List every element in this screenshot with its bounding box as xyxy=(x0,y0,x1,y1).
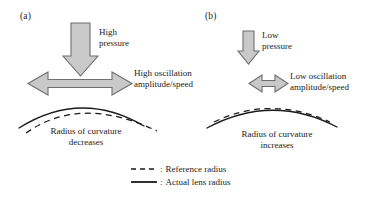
legend-reference-radius-separator: : xyxy=(160,164,163,174)
panel-a-oscillation-label: High oscillation amplitude/speed xyxy=(134,68,193,90)
panel-label-a: (a) xyxy=(20,11,31,21)
panel-b-reference-radius-curve xyxy=(214,109,330,123)
legend-item-reference-radius: : Reference radius xyxy=(131,164,226,174)
legend-reference-radius-label: Reference radius xyxy=(166,164,227,174)
panel-a-actual-lens-radius-curve xyxy=(19,108,144,128)
panel-b-actual-lens-radius-curve xyxy=(207,110,337,128)
panel-a-pressure-arrow xyxy=(63,23,98,76)
panel-a-oscillation-arrow xyxy=(28,72,132,95)
panel-b-pressure-label: Low pressure xyxy=(262,30,292,52)
panel-b-pressure-arrow xyxy=(238,31,259,64)
panel-a-curvature-label: Radius of curvature decreases xyxy=(22,126,150,148)
panel-b-oscillation-label: Low oscillation amplitude/speed xyxy=(290,71,349,93)
legend-actual-lens-radius-separator: : xyxy=(160,177,163,187)
figure-canvas: (a) High pressure High oscillation ampli… xyxy=(0,0,379,199)
legend-dashed-line-icon xyxy=(131,165,157,173)
legend-actual-lens-radius-label: Actual lens radius xyxy=(166,177,231,187)
panel-b-oscillation-arrow xyxy=(249,75,288,92)
legend-item-actual-lens-radius: : Actual lens radius xyxy=(131,177,231,187)
panel-b-curvature-label: Radius of curvature increases xyxy=(213,129,341,151)
legend-solid-line-icon xyxy=(131,178,157,186)
panel-a-pressure-label: High pressure xyxy=(99,27,129,49)
panel-label-b: (b) xyxy=(205,11,217,21)
